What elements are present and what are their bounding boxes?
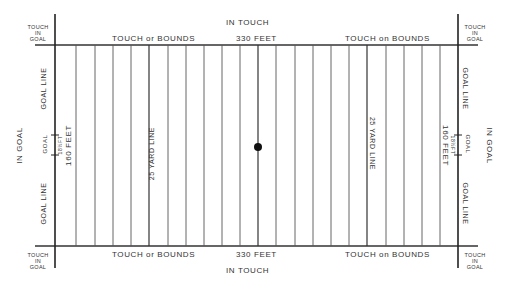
goal-line-left-lower: GOAL LINE — [40, 179, 47, 229]
touch-or-bounds-top-left: TOUCH or BOUNDS — [112, 34, 195, 43]
length-top: 330 FEET — [236, 34, 277, 43]
goal-line-left-upper: GOAL LINE — [40, 64, 47, 114]
in-goal-right: IN GOAL — [485, 121, 494, 171]
goal-width-left: 18½FT — [57, 130, 63, 160]
goal-line-right-upper: GOAL LINE — [462, 64, 469, 114]
rugby-field-diagram: IN TOUCH TOUCHINGOAL TOUCHINGOAL TOUCH o… — [0, 0, 511, 293]
length-bottom: 330 FEET — [236, 250, 277, 259]
goal-line-right-lower: GOAL LINE — [462, 179, 469, 229]
in-touch-top: IN TOUCH — [226, 18, 269, 27]
touch-in-goal-bottom-right: TOUCHINGOAL — [460, 252, 490, 270]
goal-right: GOAL — [465, 129, 471, 159]
touch-or-bounds-top-right: TOUCH on BOUNDS — [345, 34, 430, 43]
touch-or-bounds-bottom-left: TOUCH or BOUNDS — [112, 250, 195, 259]
yard-line-left: 25 YARD LINE — [148, 119, 155, 189]
in-touch-bottom: IN TOUCH — [226, 266, 269, 275]
goal-width-right: 18½FT — [450, 130, 456, 160]
width-right: 160 FEET — [441, 121, 450, 171]
touch-or-bounds-bottom-right: TOUCH on BOUNDS — [345, 250, 430, 259]
touch-in-goal-top-right: TOUCHINGOAL — [460, 24, 490, 42]
width-left: 160 FEET — [64, 121, 73, 171]
yard-line-right: 25 YARD LINE — [369, 109, 376, 179]
touch-in-goal-bottom-left: TOUCHINGOAL — [23, 252, 53, 270]
in-goal-left: IN GOAL — [15, 121, 24, 171]
goal-left: GOAL — [42, 129, 48, 159]
center-spot — [254, 143, 262, 151]
touch-in-goal-top-left: TOUCHINGOAL — [23, 24, 53, 42]
